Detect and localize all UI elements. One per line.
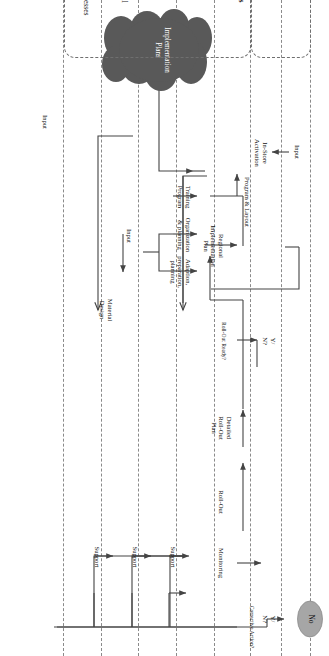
lane-label-tools-processes: Tools & processes [82,0,91,16]
node-monitoring: Monitoring [217,536,225,590]
terminator-no: No [297,600,323,638]
node-material-design: Material Design [99,289,114,331]
terminator-no-label: No [307,600,316,638]
node-decision-yn-2: Y/ N? [262,608,277,630]
node-roll-out-ready: Roll-Out Ready? [221,314,227,368]
group-box-trade-operations [64,0,251,58]
node-support-3: Support [93,536,101,578]
node-adaption-preparation-planning: Adaption, preparation, planning [169,248,192,296]
node-input-activation: Input [293,138,301,166]
node-program-layout: Program & Layout [243,172,251,232]
node-input-store-material: Input [125,222,133,250]
node-corrective-action: Corrective Action? [249,596,255,656]
node-detailed-roll-out-plan: Detailed Roll-Out Plan [210,404,233,452]
flowchart-canvas: Implementation Plans No Input In-Store A… [0,0,329,656]
node-in-store-activation: In-Store Activation [254,133,269,173]
node-input-market-bottom: Input [41,108,49,136]
node-support-2: Support [131,536,139,578]
lane-label-store-material: Store material [120,0,129,3]
diagram-rotation-wrapper: Implementation Plans No Input In-Store A… [0,0,329,656]
flow-connectors [0,0,329,656]
node-roll-out: Roll-Out [217,478,225,526]
node-support-1: Support [169,536,177,578]
node-regional-implementation-plan: Regional Implementation Plan [202,218,225,274]
group-box-region [251,0,311,58]
group-title-trade-operations: Trade operations [237,0,247,3]
node-decision-yn-1: Y/ N? [262,330,277,352]
